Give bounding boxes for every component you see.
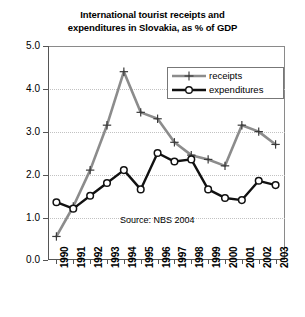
xtick-mark-2003 [276, 260, 277, 264]
xtick-mark-1999 [208, 260, 209, 264]
chart-title: International tourist receipts and expen… [0, 8, 305, 34]
source-note: Source: NBS 2004 [120, 215, 195, 225]
xtick-label-2002: 2002 [263, 247, 273, 268]
xtick-mark-1993 [107, 260, 108, 264]
xtick-label-1996: 1996 [162, 247, 172, 268]
xtick-mark-1996 [158, 260, 159, 264]
ytick-mark-1 [43, 218, 48, 219]
xtick-label-2000: 2000 [229, 247, 239, 268]
xtick-mark-1995 [141, 260, 142, 264]
xtick-label-1993: 1993 [111, 247, 121, 268]
xtick-label-1994: 1994 [128, 247, 138, 268]
ytick-label-4: 4.0 [10, 84, 40, 94]
xtick-label-1995: 1995 [145, 247, 155, 268]
chart-title-line-1: International tourist receipts and [80, 9, 224, 20]
ytick-mark-2 [43, 175, 48, 176]
xtick-mark-2001 [242, 260, 243, 264]
ytick-label-1: 1.0 [10, 213, 40, 223]
legend-item-receipts: receipts [172, 69, 242, 83]
xtick-label-1997: 1997 [178, 247, 188, 268]
xtick-mark-1990 [56, 260, 57, 264]
xtick-mark-1997 [174, 260, 175, 264]
legend-swatch-expenditures [172, 84, 206, 96]
legend-item-expenditures: expenditures [172, 83, 263, 97]
ytick-mark-3 [43, 132, 48, 133]
chart-figure: International tourist receipts and expen… [0, 0, 305, 317]
xtick-label-1992: 1992 [94, 247, 104, 268]
ytick-label-0: 0.0 [10, 255, 40, 265]
ytick-mark-4 [43, 89, 48, 90]
xtick-mark-1994 [124, 260, 125, 264]
xtick-mark-1998 [191, 260, 192, 264]
xtick-mark-1992 [90, 260, 91, 264]
legend-label-receipts: receipts [209, 71, 242, 81]
ytick-mark-0 [43, 260, 48, 261]
chart-legend: receipts expenditures [167, 67, 284, 99]
legend-swatch-receipts [172, 70, 206, 82]
xtick-mark-2000 [225, 260, 226, 264]
xtick-mark-1991 [73, 260, 74, 264]
xtick-mark-2002 [259, 260, 260, 264]
xtick-label-1991: 1991 [77, 247, 87, 268]
ytick-label-5: 5.0 [10, 41, 40, 51]
chart-title-line-2: expenditures in Slovakia, as % of GDP [0, 21, 305, 34]
xtick-label-1998: 1998 [195, 247, 205, 268]
xtick-label-1990: 1990 [60, 247, 70, 268]
xtick-label-2003: 2003 [280, 247, 290, 268]
ytick-label-2: 2.0 [10, 170, 40, 180]
ytick-label-3: 3.0 [10, 127, 40, 137]
xtick-label-2001: 2001 [246, 247, 256, 268]
legend-label-expenditures: expenditures [209, 85, 263, 95]
xtick-label-1999: 1999 [212, 247, 222, 268]
ytick-mark-5 [43, 46, 48, 47]
